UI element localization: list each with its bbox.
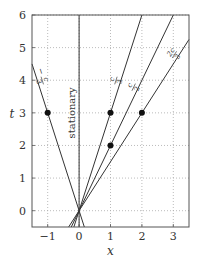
line-label-2c/3: 2c3 xyxy=(165,47,184,64)
x-tick-label: −1 xyxy=(40,230,56,243)
y-tick-label: 2 xyxy=(19,139,26,152)
event-point xyxy=(45,110,51,116)
y-tick-label: 4 xyxy=(19,74,26,87)
worldline-c/3 xyxy=(74,15,142,227)
x-tick-label: 0 xyxy=(76,230,83,243)
spacetime-chart: stationary−c3c3c22c3 −10123 0123456 x t xyxy=(0,0,197,266)
y-tick-label: 6 xyxy=(19,9,26,22)
line-label-c/2: c2 xyxy=(125,80,143,94)
svg-text:−: − xyxy=(36,67,47,76)
worldline-c/2 xyxy=(71,15,173,227)
svg-text:3: 3 xyxy=(173,53,182,61)
y-tick-label: 3 xyxy=(19,107,26,120)
svg-text:3: 3 xyxy=(34,78,43,85)
event-points xyxy=(45,110,145,149)
event-point xyxy=(108,110,114,116)
x-axis-label: x xyxy=(107,244,114,258)
y-axis-ticks: 0123456 xyxy=(19,9,35,218)
svg-text:3: 3 xyxy=(115,78,124,85)
x-tick-label: 1 xyxy=(107,230,114,243)
event-point xyxy=(139,110,145,116)
x-tick-label: 3 xyxy=(170,230,177,243)
y-tick-label: 0 xyxy=(19,205,26,218)
stationary-label: stationary xyxy=(66,87,77,139)
x-tick-label: 2 xyxy=(138,230,145,243)
y-tick-label: 5 xyxy=(19,42,26,55)
y-tick-label: 1 xyxy=(19,172,26,185)
event-point xyxy=(108,142,114,148)
worldline-2c/3 xyxy=(69,39,189,227)
svg-text:2: 2 xyxy=(133,85,142,92)
grid-lines xyxy=(32,15,189,227)
y-axis-label: t xyxy=(10,107,15,121)
